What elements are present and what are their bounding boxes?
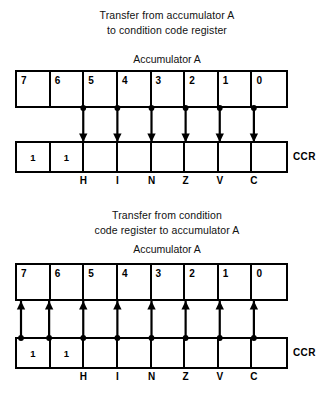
panel2-transfer-arrow-3 — [113, 301, 121, 341]
panel1-ccr-cell-6[interactable] — [219, 143, 253, 171]
panel1-acc-cell-7[interactable]: 7 — [17, 72, 51, 106]
panel2-transfer-arrow-2 — [79, 301, 87, 341]
panel2-transfer-arrow-1 — [45, 301, 53, 341]
panel2-flag-v: V — [213, 371, 227, 382]
panel2-arrow-head-7 — [250, 301, 258, 310]
panel1-acc-bit-4: 4 — [118, 72, 128, 86]
panel1-acc-bit-2: 2 — [185, 72, 195, 86]
panel2-acc-cell-2[interactable]: 2 — [185, 265, 219, 299]
panel2-flag-c: C — [247, 371, 261, 382]
panel2-ccr-value-1: 1 — [64, 348, 69, 359]
panel2-accumulator-register: 7 6 5 4 3 2 1 0 — [15, 263, 288, 301]
panel1-acc-cell-5[interactable]: 5 — [84, 72, 118, 106]
panel2-transfer-arrow-4 — [147, 301, 155, 341]
panel2-ccr-value-0: 1 — [30, 348, 35, 359]
panel2-arrow-head-1 — [45, 301, 53, 310]
panel2-flag-i: I — [110, 371, 124, 382]
panel2-acc-bit-7: 7 — [17, 265, 27, 279]
panel1-accumulator-register: 7 6 5 4 3 2 1 0 — [15, 70, 288, 108]
panel1-ccr-cell-3[interactable] — [118, 143, 152, 171]
panel2-arrow-head-0 — [17, 301, 25, 310]
panel1-acc-cell-6[interactable]: 6 — [51, 72, 85, 106]
panel2-title-line-1: Transfer from condition — [0, 208, 334, 223]
panel1-acc-cell-4[interactable]: 4 — [118, 72, 152, 106]
panel1-flag-z: Z — [179, 175, 193, 186]
panel2-transfer-arrow-6 — [216, 301, 224, 341]
panel1-transfer-arrow-1 — [113, 105, 121, 142]
panel2-acc-cell-7[interactable]: 7 — [17, 265, 51, 299]
panel1-acc-bit-0: 0 — [252, 72, 262, 86]
panel1-acc-bit-7: 7 — [17, 72, 27, 86]
panel2-acc-cell-0[interactable]: 0 — [252, 265, 286, 299]
panel2-acc-bit-3: 3 — [152, 265, 162, 279]
panel1-acc-cell-1[interactable]: 1 — [219, 72, 253, 106]
panel2-arrow-head-4 — [147, 301, 155, 310]
panel1-ccr-cell-0[interactable]: 1 — [17, 143, 51, 171]
panel1-ccr-cell-5[interactable] — [185, 143, 219, 171]
panel2-ccr-cell-5[interactable] — [185, 339, 219, 367]
panel2-flag-h: H — [76, 371, 90, 382]
panel2-acc-cell-5[interactable]: 5 — [84, 265, 118, 299]
panel1-acc-bit-1: 1 — [219, 72, 229, 86]
panel2-transfer-arrow-0 — [17, 301, 25, 341]
panel1-transfer-arrow-4 — [216, 105, 224, 142]
panel2-arrow-head-5 — [181, 301, 189, 310]
panel1-ccr-value-1: 1 — [64, 152, 69, 163]
panel2-arrow-head-6 — [216, 301, 224, 310]
panel1-transfer-arrow-5 — [250, 105, 258, 142]
panel1-ccr-cell-4[interactable] — [152, 143, 186, 171]
diagram-canvas: Transfer from accumulator A to condition… — [0, 0, 334, 397]
panel1-ccr-label: CCR — [293, 151, 316, 162]
panel2-ccr-cell-1[interactable]: 1 — [51, 339, 85, 367]
panel2-acc-bit-0: 0 — [252, 265, 262, 279]
panel1-flag-n: N — [145, 175, 159, 186]
panel2-ccr-cell-4[interactable] — [152, 339, 186, 367]
panel2-acc-bit-1: 1 — [219, 265, 229, 279]
panel2-ccr-cell-2[interactable] — [84, 339, 118, 367]
panel2-title-line-2: code register to accumulator A — [0, 223, 334, 238]
panel1-title-line-1: Transfer from accumulator A — [0, 8, 334, 23]
panel2-accumulator-label: Accumulator A — [0, 243, 334, 255]
panel1-flag-i: I — [110, 175, 124, 186]
panel1-ccr-value-0: 1 — [30, 152, 35, 163]
panel2-acc-bit-5: 5 — [84, 265, 94, 279]
panel1-acc-cell-0[interactable]: 0 — [252, 72, 286, 106]
panel2-transfer-arrow-7 — [250, 301, 258, 341]
panel2-acc-bit-2: 2 — [185, 265, 195, 279]
panel2-ccr-label: CCR — [293, 347, 316, 358]
panel1-flag-h: H — [76, 175, 90, 186]
panel1-transfer-arrow-2 — [147, 105, 155, 142]
panel2-transfer-arrow-5 — [181, 301, 189, 341]
panel1-flag-v: V — [213, 175, 227, 186]
panel2-acc-bit-6: 6 — [51, 265, 61, 279]
panel1-acc-cell-2[interactable]: 2 — [185, 72, 219, 106]
panel1-flag-c: C — [247, 175, 261, 186]
panel1-acc-bit-6: 6 — [51, 72, 61, 86]
panel1-ccr-cell-1[interactable]: 1 — [51, 143, 85, 171]
panel2-ccr-cell-7[interactable] — [252, 339, 286, 367]
panel2-ccr-cell-6[interactable] — [219, 339, 253, 367]
panel2-ccr-cell-3[interactable] — [118, 339, 152, 367]
panel1-acc-bit-3: 3 — [152, 72, 162, 86]
panel2-acc-cell-6[interactable]: 6 — [51, 265, 85, 299]
panel1-title: Transfer from accumulator A to condition… — [0, 8, 334, 38]
panel2-title: Transfer from condition code register to… — [0, 208, 334, 238]
panel1-ccr-cell-2[interactable] — [84, 143, 118, 171]
panel1-transfer-arrow-0 — [79, 105, 87, 142]
panel1-ccr-register: 1 1 — [15, 141, 288, 173]
panel2-acc-bit-4: 4 — [118, 265, 128, 279]
panel2-arrow-head-2 — [79, 301, 87, 310]
panel2-flag-n: N — [145, 371, 159, 382]
panel1-acc-bit-5: 5 — [84, 72, 94, 86]
panel1-ccr-cell-7[interactable] — [252, 143, 286, 171]
panel2-flag-z: Z — [179, 371, 193, 382]
panel2-acc-cell-3[interactable]: 3 — [152, 265, 186, 299]
panel2-ccr-cell-0[interactable]: 1 — [17, 339, 51, 367]
panel1-acc-cell-3[interactable]: 3 — [152, 72, 186, 106]
panel1-accumulator-label: Accumulator A — [0, 53, 334, 65]
panel2-arrow-head-3 — [113, 301, 121, 310]
panel2-acc-cell-1[interactable]: 1 — [219, 265, 253, 299]
panel2-ccr-register: 1 1 — [15, 337, 288, 369]
panel1-title-line-2: to condition code register — [0, 23, 334, 38]
panel2-acc-cell-4[interactable]: 4 — [118, 265, 152, 299]
